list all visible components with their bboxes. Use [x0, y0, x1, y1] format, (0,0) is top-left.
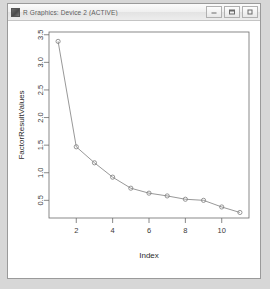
- x-tick-label: 2: [74, 226, 78, 235]
- x-axis-title: Index: [139, 251, 159, 260]
- y-tick-label: 2.0: [37, 112, 46, 122]
- close-button[interactable]: [242, 6, 258, 18]
- data-line: [58, 41, 240, 212]
- x-tick-label: 10: [218, 226, 226, 235]
- y-tick-label: 1.0: [37, 168, 46, 178]
- x-tick-label: 6: [147, 226, 151, 235]
- y-tick-label: 1.5: [37, 140, 46, 150]
- window-title: R Graphics: Device 2 (ACTIVE): [23, 9, 204, 16]
- y-tick-label: 2.5: [37, 85, 46, 95]
- x-tick-label: 8: [183, 226, 187, 235]
- data-points: [56, 39, 242, 214]
- y-tick-label: 3.5: [37, 30, 46, 40]
- r-graphics-window: R Graphics: Device 2 (ACTIVE) 0.51.01.52…: [7, 3, 261, 279]
- plot-canvas: 0.51.01.52.02.53.03.5 246810 Index Facto…: [8, 21, 260, 278]
- window-titlebar[interactable]: R Graphics: Device 2 (ACTIVE): [8, 4, 260, 21]
- plot-frame: [49, 32, 249, 218]
- y-tick-label: 3.0: [37, 57, 46, 67]
- minimize-icon: [212, 13, 217, 14]
- minimize-button[interactable]: [206, 6, 222, 18]
- x-tick-label: 4: [111, 226, 115, 235]
- app-icon: [11, 8, 20, 17]
- close-icon: [248, 10, 253, 15]
- y-axis-ticks: 0.51.01.52.02.53.03.5: [37, 30, 50, 206]
- y-axis-title: FactorResultValues: [17, 90, 26, 159]
- maximize-icon: [229, 10, 235, 15]
- y-tick-label: 0.5: [37, 195, 46, 205]
- scree-plot: 0.51.01.52.02.53.03.5 246810 Index Facto…: [8, 21, 260, 278]
- x-axis-ticks: 246810: [74, 218, 226, 235]
- maximize-button[interactable]: [224, 6, 240, 18]
